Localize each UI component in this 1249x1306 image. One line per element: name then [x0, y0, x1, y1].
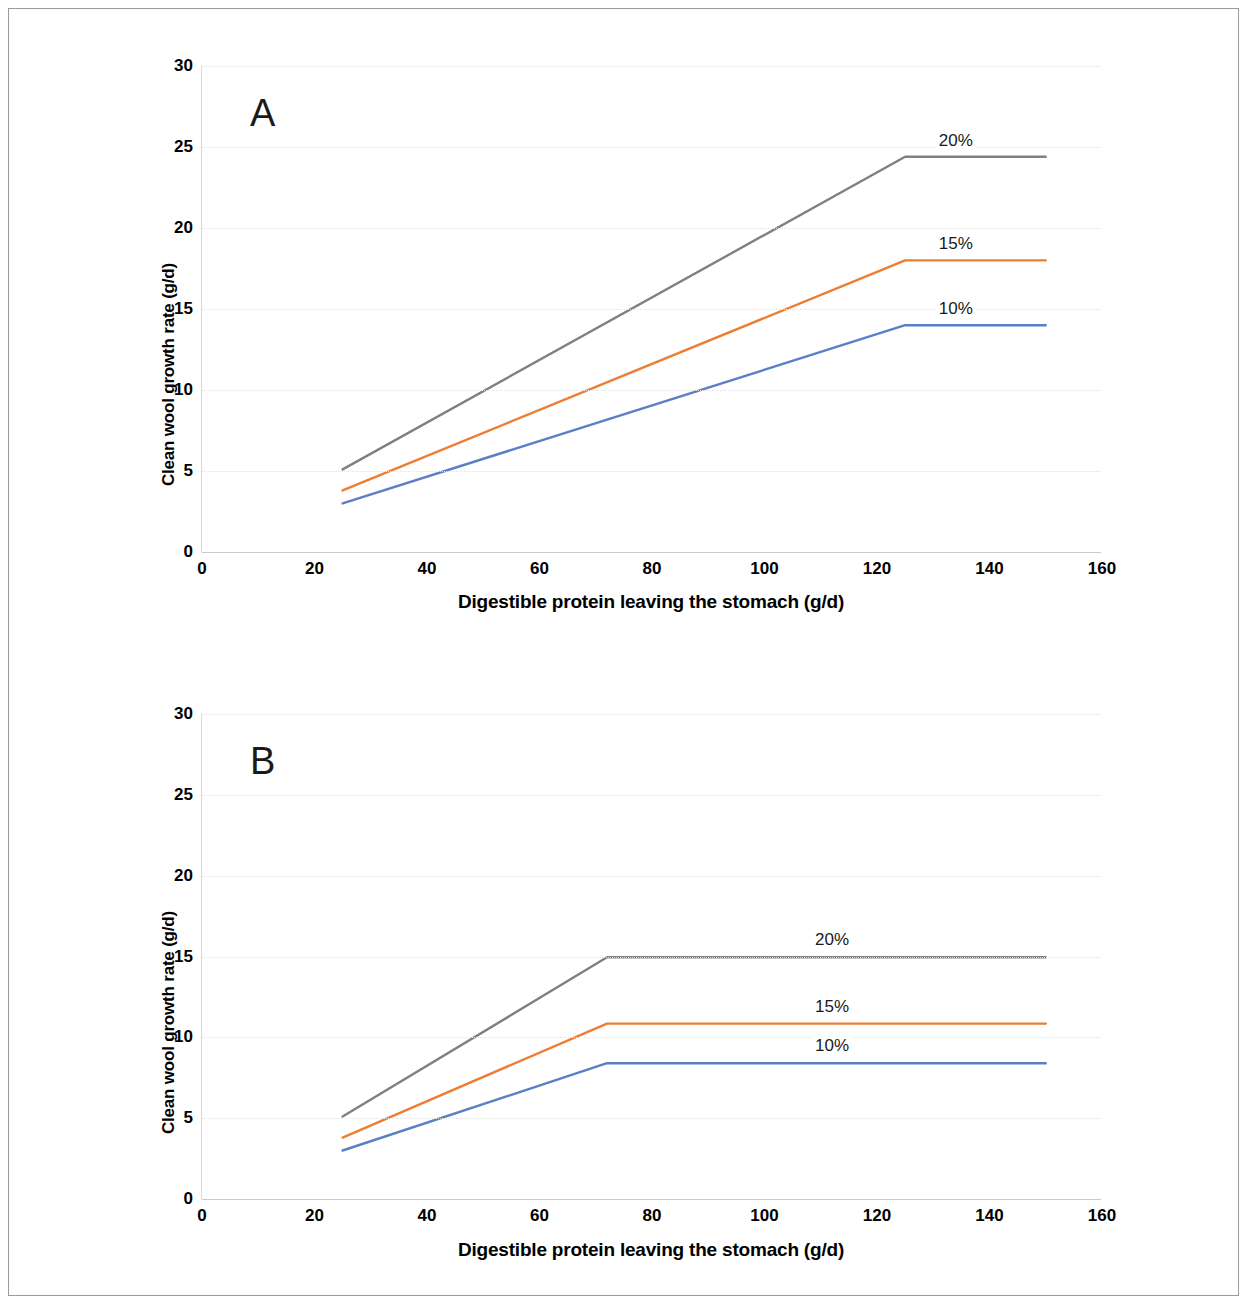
gridline-y-0 — [202, 552, 1101, 553]
figure-frame: Clean wool growth rate (g/d) A 051015202… — [8, 8, 1239, 1296]
x-axis-tick-label: 100 — [750, 559, 778, 579]
x-axis-tick-label: 20 — [305, 559, 324, 579]
gridline-y-5 — [202, 471, 1101, 472]
series-label-10pct: 10% — [936, 299, 976, 319]
series-line-15pct — [343, 1024, 1046, 1138]
x-axis-tick-label: 120 — [863, 1206, 891, 1226]
gridline-y-5 — [202, 1118, 1101, 1119]
series-line-10pct — [343, 1063, 1046, 1150]
gridline-y-30 — [202, 66, 1101, 67]
y-axis-tick-label: 20 — [174, 866, 193, 886]
x-axis-tick-label: 0 — [197, 559, 206, 579]
x-axis-tick-label: 80 — [643, 1206, 662, 1226]
y-axis-tick-label: 5 — [184, 461, 193, 481]
y-axis-tick-label: 5 — [184, 1108, 193, 1128]
gridline-y-20 — [202, 228, 1101, 229]
y-axis-tick-label: 25 — [174, 785, 193, 805]
y-axis-tick-label: 15 — [174, 947, 193, 967]
y-axis-title: Clean wool growth rate (g/d) — [159, 263, 179, 486]
y-axis-tick-label: 15 — [174, 299, 193, 319]
plot-area-a: A 05101520253002040608010012014016020%15… — [201, 66, 1101, 552]
x-axis-tick-label: 140 — [975, 559, 1003, 579]
x-axis-tick-label: 80 — [643, 559, 662, 579]
series-line-15pct — [343, 260, 1046, 490]
x-axis-tick-label: 60 — [530, 559, 549, 579]
chart-panel-b: Clean wool growth rate (g/d) B 051015202… — [9, 679, 1240, 1239]
y-axis-tick-label: 30 — [174, 56, 193, 76]
series-label-10pct: 10% — [812, 1036, 852, 1056]
chart-panel-a: Clean wool growth rate (g/d) A 051015202… — [9, 31, 1240, 641]
y-axis-tick-label: 10 — [174, 380, 193, 400]
y-axis-tick-label: 0 — [184, 1189, 193, 1209]
x-axis-tick-label: 100 — [750, 1206, 778, 1226]
x-axis-tick-label: 60 — [530, 1206, 549, 1226]
x-axis-tick-label: 40 — [418, 559, 437, 579]
series-label-15pct: 15% — [812, 997, 852, 1017]
gridline-y-10 — [202, 1037, 1101, 1038]
y-axis-tick-label: 0 — [184, 542, 193, 562]
x-axis-tick-label: 140 — [975, 1206, 1003, 1226]
series-label-20pct: 20% — [936, 131, 976, 151]
y-axis-tick-label: 25 — [174, 137, 193, 157]
x-axis-tick-label: 160 — [1088, 559, 1116, 579]
gridline-y-15 — [202, 957, 1101, 958]
y-axis-tick-label: 30 — [174, 704, 193, 724]
gridline-y-30 — [202, 714, 1101, 715]
x-axis-title: Digestible protein leaving the stomach (… — [201, 1239, 1101, 1261]
x-axis-tick-label: 20 — [305, 1206, 324, 1226]
series-label-20pct: 20% — [812, 930, 852, 950]
y-axis-title: Clean wool growth rate (g/d) — [159, 911, 179, 1134]
x-axis-tick-label: 40 — [418, 1206, 437, 1226]
gridline-y-0 — [202, 1199, 1101, 1200]
y-axis-tick-label: 10 — [174, 1027, 193, 1047]
x-axis-title: Digestible protein leaving the stomach (… — [201, 591, 1101, 613]
series-line-10pct — [343, 325, 1046, 503]
gridline-y-25 — [202, 795, 1101, 796]
gridline-y-10 — [202, 390, 1101, 391]
gridline-y-20 — [202, 876, 1101, 877]
plot-area-b: B 05101520253002040608010012014016020%15… — [201, 714, 1101, 1199]
y-axis-tick-label: 20 — [174, 218, 193, 238]
x-axis-tick-label: 160 — [1088, 1206, 1116, 1226]
series-label-15pct: 15% — [936, 234, 976, 254]
x-axis-tick-label: 0 — [197, 1206, 206, 1226]
x-axis-tick-label: 120 — [863, 559, 891, 579]
